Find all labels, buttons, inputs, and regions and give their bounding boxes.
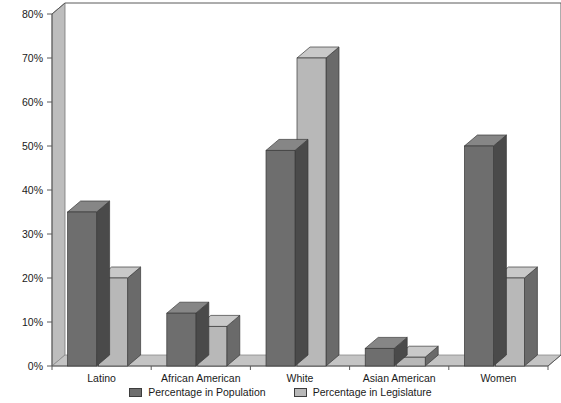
y-tick-label: 10% (22, 316, 43, 328)
bar-front-face (464, 146, 493, 366)
legend-label-population: Percentage in Population (148, 386, 265, 398)
bar-front-face (68, 212, 97, 366)
bar-side-face (97, 201, 110, 366)
y-tick-label: 0% (28, 360, 43, 372)
chart-plot-area: 0%10%20%30%40%50%60%70%80% LatinoAfrican… (0, 0, 561, 403)
bar-women-population (464, 135, 506, 366)
legend-label-legislature: Percentage in Legislature (313, 386, 432, 398)
bar-side-face (326, 47, 339, 366)
bar-side-face (493, 135, 506, 366)
bar-side-face (524, 267, 537, 366)
legend-swatch-legislature (294, 388, 307, 397)
left-wall (52, 3, 65, 366)
x-axis-ticks (52, 366, 548, 370)
y-tick-label: 70% (22, 52, 43, 64)
bar-front-face (266, 150, 295, 366)
y-tick-label: 60% (22, 96, 43, 108)
bar-side-face (128, 267, 141, 366)
bars-layer (68, 47, 538, 366)
y-tick-label: 30% (22, 228, 43, 240)
bar-latino-population (68, 201, 110, 366)
legend-item-population: Percentage in Population (129, 386, 265, 398)
y-tick-label: 50% (22, 140, 43, 152)
legend-swatch-population (129, 388, 142, 397)
y-tick-label: 20% (22, 272, 43, 284)
bar-chart: 0%10%20%30%40%50%60%70%80% LatinoAfrican… (0, 0, 561, 403)
bar-side-face (295, 139, 308, 366)
bar-african-american-population (167, 302, 209, 366)
bar-white-population (266, 139, 308, 366)
y-axis-ticks: 0%10%20%30%40%50%60%70%80% (22, 8, 52, 372)
legend-item-legislature: Percentage in Legislature (294, 386, 432, 398)
y-tick-label: 80% (22, 8, 43, 20)
bar-front-face (167, 313, 196, 366)
chart-legend: Percentage in Population Percentage in L… (0, 383, 561, 401)
y-tick-label: 40% (22, 184, 43, 196)
bar-front-face (365, 348, 394, 366)
